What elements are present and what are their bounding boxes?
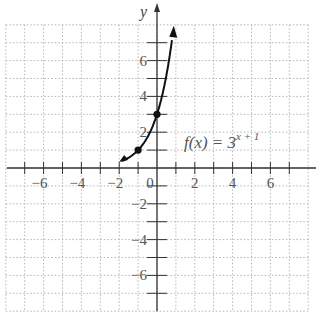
x-tick-labels: −6−4−20246 [32, 175, 275, 191]
x-tick-label: −6 [32, 175, 48, 191]
x-tick-label: −2 [107, 175, 123, 191]
y-tick-label: −2 [131, 196, 147, 212]
function-label: f(x) = 3x + 1 [184, 130, 259, 152]
x-tick-label: 4 [229, 175, 237, 191]
x-tick-label: 0 [146, 175, 154, 191]
y-tick-label: 6 [140, 53, 148, 69]
function-curve [119, 26, 177, 162]
function-label-prefix: f(x) = 3 [184, 133, 236, 152]
y-tick-label: 4 [140, 88, 148, 104]
curve-arrow-left-icon [119, 155, 128, 162]
marked-point [153, 111, 160, 118]
y-axis-arrow-icon [154, 3, 160, 12]
y-tick-label: −6 [131, 267, 147, 283]
y-tick-label: −4 [131, 232, 147, 248]
axes [7, 3, 316, 311]
x-tick-label: 2 [191, 175, 199, 191]
x-tick-label: −4 [69, 175, 85, 191]
function-label-exponent: x + 1 [235, 130, 259, 142]
exponential-function-graph: −6−4−20246 642−2−4−6 y f(x) = 3x + 1 [0, 0, 318, 329]
x-tick-label: 6 [267, 175, 275, 191]
marked-point [135, 147, 142, 154]
y-tick-label: 2 [140, 124, 148, 140]
y-axis-label: y [138, 3, 148, 21]
